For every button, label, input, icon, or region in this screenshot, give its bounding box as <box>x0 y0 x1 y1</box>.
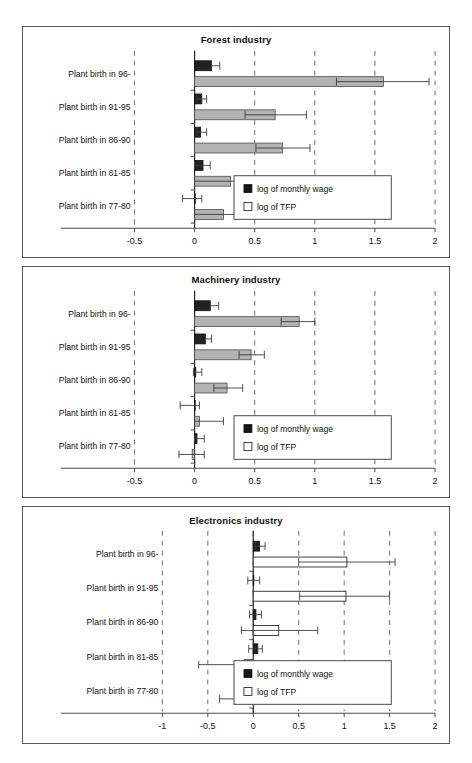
legend: log of monthly wagelog of TFP <box>234 176 391 220</box>
category-label: Plant birth in 91-95 <box>87 583 159 593</box>
bar-wage-0 <box>195 301 211 311</box>
category-label: Plant birth in 96- <box>68 69 130 79</box>
legend-swatch-wage <box>244 670 252 678</box>
category-label: Plant birth in 77-80 <box>59 201 131 211</box>
x-tick-label: 0 <box>192 236 197 246</box>
x-tick-label: -0.5 <box>127 476 142 486</box>
category-label: Plant birth in 86-90 <box>59 135 131 145</box>
category-label: Plant birth in 86-90 <box>59 375 131 385</box>
legend-box <box>234 416 391 460</box>
category-label: Plant birth in 86-90 <box>87 618 159 628</box>
x-tick-label: 1.5 <box>383 721 395 731</box>
legend-swatch-tfp <box>244 202 252 210</box>
x-tick-label: 2 <box>433 236 438 246</box>
category-label: Plant birth in 96- <box>68 309 130 319</box>
legend-swatch-wage <box>244 185 252 193</box>
bar-wage-1 <box>195 334 206 344</box>
x-tick-label: 1 <box>312 236 317 246</box>
category-label: Plant birth in 81-85 <box>59 168 131 178</box>
x-tick-label: -0.5 <box>200 721 215 731</box>
legend-swatch-wage <box>244 425 252 433</box>
x-tick-label: 1.5 <box>369 236 381 246</box>
category-label: Plant birth in 77-80 <box>87 686 159 696</box>
x-tick-label: -0.5 <box>127 236 142 246</box>
chart-panel-electronics: Electronics industry -1-0.500.511.52Plan… <box>22 506 450 744</box>
plot-area-electronics: -1-0.500.511.52Plant birth in 96-Plant b… <box>23 507 449 743</box>
plot-area-machinery: -0.500.511.52Plant birth in 96-Plant bir… <box>23 267 449 497</box>
figure-root: Forest industry -0.500.511.52Plant birth… <box>0 0 472 763</box>
legend-label-wage: log of monthly wage <box>257 669 333 679</box>
x-tick-label: 1 <box>312 476 317 486</box>
bar-wage-0 <box>195 61 212 71</box>
x-tick-label: 1 <box>342 721 347 731</box>
plot-area-forest: -0.500.511.52Plant birth in 96-Plant bir… <box>23 27 449 257</box>
figure-caption <box>22 750 450 760</box>
x-tick-label: 0.5 <box>248 236 260 246</box>
chart-panel-forest: Forest industry -0.500.511.52Plant birth… <box>22 26 450 258</box>
x-tick-label: 1.5 <box>369 476 381 486</box>
legend-swatch-tfp <box>244 442 252 450</box>
x-tick-label: 0.5 <box>292 721 304 731</box>
legend: log of monthly wagelog of TFP <box>234 661 391 705</box>
x-tick-label: -1 <box>158 721 166 731</box>
category-label: Plant birth in 77-80 <box>59 441 131 451</box>
category-label: Plant birth in 81-85 <box>87 652 159 662</box>
category-label: Plant birth in 81-85 <box>59 408 131 418</box>
legend-label-wage: log of monthly wage <box>257 424 333 434</box>
chart-panel-machinery: Machinery industry -0.500.511.52Plant bi… <box>22 266 450 498</box>
legend-label-wage: log of monthly wage <box>257 184 333 194</box>
legend-box <box>234 176 391 220</box>
legend-label-tfp: log of TFP <box>257 442 297 452</box>
category-label: Plant birth in 91-95 <box>59 342 131 352</box>
legend-label-tfp: log of TFP <box>257 202 297 212</box>
legend-box <box>234 661 391 705</box>
x-tick-label: 0.5 <box>248 476 260 486</box>
x-tick-label: 2 <box>433 476 438 486</box>
legend: log of monthly wagelog of TFP <box>234 416 391 460</box>
x-tick-label: 0 <box>192 476 197 486</box>
category-label: Plant birth in 96- <box>96 549 158 559</box>
x-tick-label: 2 <box>433 721 438 731</box>
category-label: Plant birth in 91-95 <box>59 102 131 112</box>
x-tick-label: 0 <box>251 721 256 731</box>
legend-swatch-tfp <box>244 687 252 695</box>
legend-label-tfp: log of TFP <box>257 687 297 697</box>
